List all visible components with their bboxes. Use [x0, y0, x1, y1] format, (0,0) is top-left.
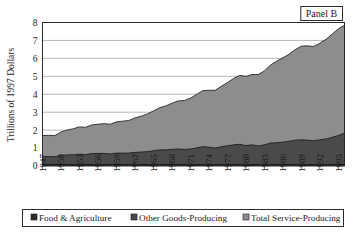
- x-tick-label: 1971: [186, 154, 196, 172]
- x-tick-label: 1968: [167, 154, 177, 173]
- stacked-areas: [43, 25, 345, 166]
- x-tick-label: 1989: [297, 154, 307, 173]
- x-tick-label: 1983: [260, 154, 270, 173]
- x-axis-ticks: 1947195019531956195919621965196819711974…: [38, 154, 344, 173]
- legend-swatch: [131, 214, 137, 220]
- y-axis-ticks: 012345678: [33, 18, 38, 172]
- x-tick-label: 1995: [334, 154, 344, 173]
- legend-items: Food & AgricultureOther Goods-ProducingT…: [31, 213, 341, 223]
- x-tick-label: 1992: [315, 154, 325, 172]
- y-tick-label: 7: [33, 36, 38, 46]
- x-tick-label: 1965: [149, 154, 159, 173]
- y-tick-label: 3: [33, 108, 38, 118]
- legend-label: Total Service-Producing: [251, 213, 341, 223]
- x-tick-label: 1962: [130, 154, 140, 172]
- y-tick-label: 6: [33, 54, 38, 64]
- y-tick-label: 8: [33, 18, 38, 28]
- y-tick-label: 5: [33, 72, 38, 82]
- legend: Food & AgricultureOther Goods-ProducingT…: [23, 210, 344, 227]
- panel-label: Panel B: [306, 8, 338, 19]
- panel-label-group: Panel B: [301, 7, 343, 21]
- y-tick-label: 1: [33, 143, 38, 153]
- x-tick-label: 1977: [223, 154, 233, 173]
- x-tick-label: 1947: [38, 154, 48, 173]
- x-tick-label: 1986: [278, 154, 288, 173]
- y-tick-label: 4: [33, 90, 38, 100]
- x-tick-label: 1953: [75, 154, 85, 173]
- y-axis-title: Trillions of 1997 Dollars: [6, 48, 16, 143]
- y-tick-label: 2: [33, 126, 38, 136]
- chart-figure: 012345678 194719501953195619591962196519…: [0, 0, 357, 239]
- x-tick-label: 1974: [204, 154, 214, 173]
- x-tick-label: 1980: [241, 154, 251, 173]
- legend-swatch: [31, 214, 37, 220]
- legend-label: Food & Agriculture: [39, 213, 111, 223]
- x-tick-label: 1956: [93, 154, 103, 173]
- legend-swatch: [243, 214, 249, 220]
- x-tick-label: 1950: [56, 154, 66, 173]
- legend-label: Other Goods-Producing: [139, 213, 227, 223]
- x-tick-label: 1959: [112, 154, 122, 173]
